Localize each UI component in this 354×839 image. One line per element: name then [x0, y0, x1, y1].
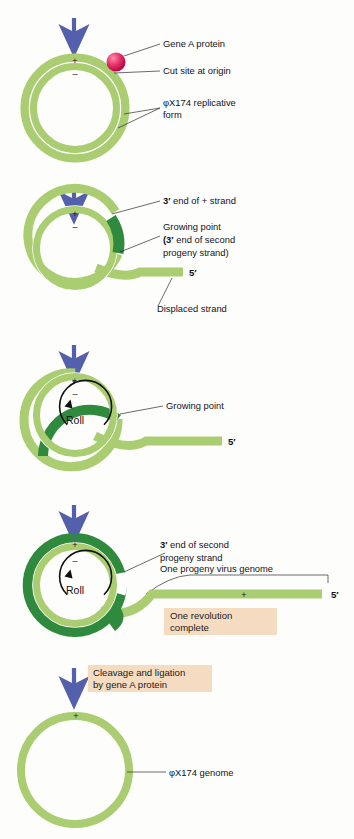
- plus-sign-panel5: +: [73, 711, 78, 721]
- three-prime-rest: end of + strand: [170, 195, 235, 206]
- callout-line2: by gene A protein: [93, 679, 167, 690]
- figure-background: [0, 0, 354, 839]
- label-cut-site: Cut site at origin: [163, 65, 231, 76]
- label-displaced-strand: Displaced strand: [157, 303, 227, 314]
- label-five-prime-panel3: 5′: [228, 436, 236, 447]
- growing-sub-rest: end of second: [174, 234, 236, 245]
- label-growing-point: Growing point: [163, 221, 221, 232]
- plus-sign-panel1: +: [72, 56, 77, 66]
- minus-sign-panel2: –: [72, 222, 77, 232]
- label-roll-panel3: Roll: [66, 414, 84, 426]
- minus-sign-panel4: –: [72, 556, 77, 566]
- label-three-prime-second-progeny2: progeny strand: [160, 552, 223, 563]
- gene-a-protein-icon: [107, 53, 126, 72]
- rolling-circle-replication-figure: + – Gene A protein Cut site at origin φX…: [0, 0, 354, 839]
- minus-sign-panel1: –: [72, 69, 77, 79]
- label-three-prime-plus-strand: 3′ end of + strand: [163, 195, 236, 206]
- label-five-prime-panel4: 5′: [331, 589, 339, 600]
- callout-line2: complete: [170, 622, 209, 633]
- label-replicative-form-line2: form: [163, 109, 182, 120]
- tail-plus-sign-panel4: +: [241, 590, 246, 600]
- label-growing-point-sub: (3′ end of second: [163, 234, 235, 245]
- callout-line1: Cleavage and ligation: [93, 667, 185, 678]
- label-roll-panel4: Roll: [66, 584, 84, 596]
- callout-cleavage-and-ligation: Cleavage and ligation by gene A protein: [88, 665, 212, 692]
- label-five-prime-panel2: 5′: [189, 267, 197, 278]
- minus-sign-panel3: –: [72, 389, 77, 399]
- three-prime-rest: end of second: [167, 539, 229, 550]
- plus-sign-panel4: +: [72, 540, 77, 550]
- label-gene-a-protein: Gene A protein: [163, 38, 225, 49]
- label-growing-point-panel3: Growing point: [166, 400, 224, 411]
- label-growing-point-sub2: progeny strand): [163, 247, 229, 258]
- plus-sign-panel2: +: [72, 209, 77, 219]
- callout-one-revolution-complete: One revolution complete: [164, 608, 277, 635]
- label-three-prime-second-progeny: 3′ end of second: [160, 539, 229, 550]
- growing-point-gap: [120, 573, 122, 594]
- callout-line1: One revolution: [170, 610, 232, 621]
- label-replicative-form-line1: φX174 replicative: [163, 97, 236, 108]
- label-phix174-genome: φX174 genome: [169, 767, 233, 778]
- label-one-progeny-virus-genome: One progeny virus genome: [160, 563, 273, 574]
